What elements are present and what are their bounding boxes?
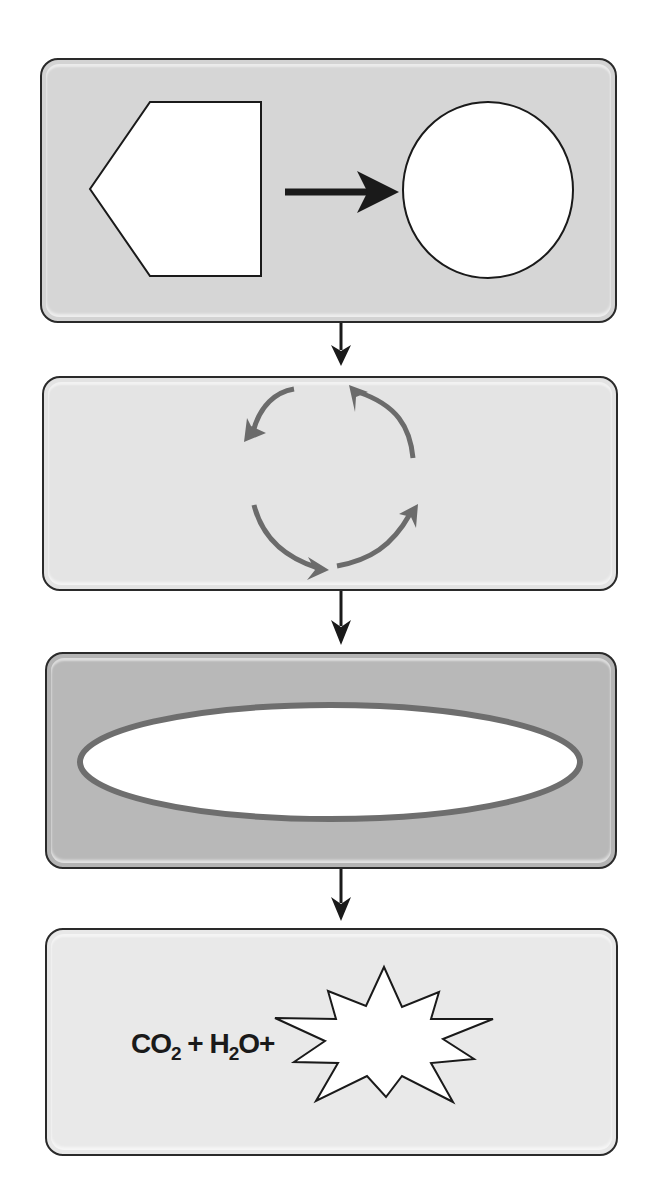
circle-shape <box>403 102 573 278</box>
starburst-shape <box>275 967 493 1102</box>
formula-tail: O+ <box>238 1028 274 1059</box>
pentagon-shape <box>90 102 261 276</box>
formula-sub-2: 2 <box>229 1043 239 1064</box>
ellipse-shape <box>80 705 580 819</box>
reaction-formula: CO2 + H2O+ <box>131 1028 274 1065</box>
formula-co: CO <box>131 1028 171 1059</box>
diagram-graphics <box>0 0 666 1201</box>
cycle-arrows <box>253 389 413 568</box>
formula-sub-1: 2 <box>171 1043 181 1064</box>
formula-plus-h: + H <box>181 1028 229 1059</box>
